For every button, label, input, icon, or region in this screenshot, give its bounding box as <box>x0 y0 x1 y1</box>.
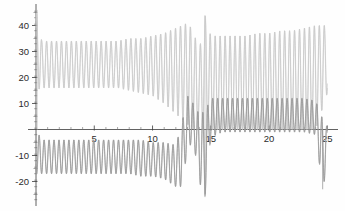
y-tick-label: 30 <box>18 46 29 57</box>
x-tick-label: 20 <box>264 133 275 144</box>
y-tick-label: -20 <box>15 176 29 187</box>
y-tick-label: 20 <box>18 72 29 83</box>
chart-canvas: 510152025-20-1010203040 <box>0 0 345 211</box>
y-tick-label: 10 <box>18 98 29 109</box>
y-tick-label: -10 <box>15 150 29 161</box>
y-tick-label: 40 <box>18 20 29 31</box>
x-tick-label: 25 <box>322 133 333 144</box>
oscillation-plot: 510152025-20-1010203040 <box>0 0 345 211</box>
